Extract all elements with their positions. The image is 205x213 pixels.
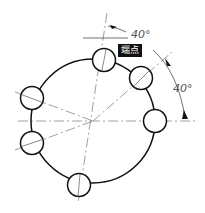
hole-3 [144,110,167,133]
cad-drawing [0,0,205,213]
snap-tooltip: 端点 [118,44,142,57]
arrowhead-right-lower [182,110,188,119]
hole-4 [21,87,44,110]
dim-arc-top [108,26,126,32]
dimension-top-angle: 40° [131,28,151,41]
arrowhead-top [110,25,117,29]
dimension-right-angle: 40° [173,82,193,95]
hole-2 [130,67,153,90]
